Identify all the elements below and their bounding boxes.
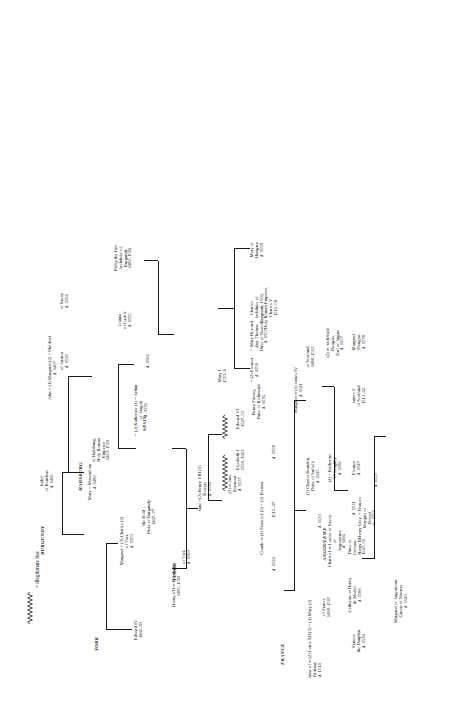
person-line: d. 1545 xyxy=(316,435,321,517)
person-node: Anne =(2) Henry VIII (1) Boleyn d. 1536 xyxy=(198,441,212,537)
person-node: Edward VI 1547–53 xyxy=(236,395,246,443)
connector xyxy=(144,260,158,261)
person-node: (4) = Katherine Willoughby d. 1580 xyxy=(328,435,342,501)
person-line: d. 1558 xyxy=(272,433,277,471)
person-line: d. 1502 xyxy=(146,341,151,381)
connector xyxy=(234,368,250,369)
person-node: of Scotland 1488–1513 xyxy=(306,331,316,383)
person-line: d. 1536 xyxy=(362,617,367,665)
person-line: 1547–53 xyxy=(241,395,246,443)
person-node: of Habsburg, Holy Roman Emperor 1493–151… xyxy=(92,419,111,481)
person-node: of Savoy d. 1504 xyxy=(60,277,70,325)
person-node: d. 1531 xyxy=(352,489,357,527)
connector xyxy=(234,248,250,249)
connector xyxy=(68,376,92,377)
connector xyxy=(118,365,119,449)
person-line: 1553–8 xyxy=(223,355,228,397)
person-node: d. 1558 xyxy=(272,433,277,471)
person-line: d. 1558 xyxy=(255,345,260,395)
person-node: Duke of Orleans, Henry II 1547–59 xyxy=(348,523,367,571)
person-node: ‘the Bold’, Duke of Burgundy 1467–77 xyxy=(142,477,156,557)
person-node: Edward IV 1461–83 xyxy=(134,597,144,663)
person-line: d. 1504 xyxy=(65,277,70,325)
connector xyxy=(62,473,63,535)
person-node: Francis the Dauphin d. 1536 xyxy=(352,617,366,665)
person-node: of York d. 1503 xyxy=(182,535,192,579)
connector xyxy=(68,377,69,473)
person-node: Mary I 1553–8 xyxy=(218,355,228,397)
person-line: 1515–47 xyxy=(272,491,277,529)
person-node: James V of Scotland 1513–42 xyxy=(352,373,366,419)
connector xyxy=(62,534,84,535)
house-label-habsburg: HABSBURG xyxy=(78,462,83,491)
person-line: 1547–59 xyxy=(362,523,367,571)
person-node: John = (1) Margaret (2) = Philibert d. 1… xyxy=(48,313,58,423)
connector xyxy=(118,364,134,365)
connector xyxy=(158,261,159,335)
connector xyxy=(284,590,294,591)
person-line: 1467–77 xyxy=(152,477,157,557)
person-node: Margaret of Angouleme Queen of Navarre d… xyxy=(394,549,408,653)
house-label-burgundy: BURGUNDY xyxy=(40,526,45,555)
genealogy-chart: YORK BURGUNDY HABSBURG SPAIN TUDOR FRANC… xyxy=(22,27,442,687)
person-node: (2) ═ Archibald Douglas, Earl of Angus d… xyxy=(326,315,345,371)
person-line: d. 1536 xyxy=(262,369,267,435)
person-line: Claude ═ (1) Francis I (2) = (2) Eleanor xyxy=(260,443,265,593)
person-node: d. 1559 xyxy=(374,461,379,499)
person-node: Charles Archduke of Burgundy 1506, Holy … xyxy=(250,265,279,351)
connector xyxy=(294,510,306,511)
person-line: d. 1530 xyxy=(65,337,70,385)
person-line: 1513–42 xyxy=(362,373,367,419)
person-line: d. 1497 xyxy=(53,313,58,423)
person-line: 1498–1515 xyxy=(327,579,332,635)
person-node: Isabel of Bourbon d. 1465 xyxy=(40,457,54,505)
connector xyxy=(172,448,186,449)
person-node: Margaret Douglas d. 1578 xyxy=(352,319,366,365)
person-line: d. 1531 xyxy=(352,489,357,527)
person-line: d. 1549 xyxy=(404,549,409,653)
person-line: d. 1557 xyxy=(340,315,345,371)
person-line: d. 1524 xyxy=(272,545,277,583)
person-node: Claude ═ (1) Francis I (2) = (2) Eleanor xyxy=(260,443,265,593)
connector xyxy=(106,629,132,630)
person-line: 1493–1519 xyxy=(106,419,111,481)
person-node: Margaret = (3) Charles (2) of York d. 15… xyxy=(120,501,134,581)
person-node: (3) Charles Brandon, Duke of Suffolk d. … xyxy=(306,435,320,517)
person-node: of Austria d. 1530 xyxy=(60,337,70,385)
person-line: d. 1503 xyxy=(187,535,192,579)
connector xyxy=(158,334,174,335)
person-node: Mary of Hungary d. 1558 xyxy=(250,227,264,273)
person-line: d. 1503 xyxy=(130,501,135,581)
person-node: of France 1498–1515 xyxy=(322,579,332,635)
person-line: d. 1559 xyxy=(374,461,379,499)
connector xyxy=(374,436,386,437)
person-node: Margaret ═ (1) James IV d. 1541 xyxy=(294,343,304,437)
house-label-france: FRANCE xyxy=(280,644,285,666)
person-line: d. 1541 xyxy=(299,343,304,437)
connector xyxy=(106,543,118,544)
connector xyxy=(322,386,334,387)
person-node: Joanna of Castile d. 1555 xyxy=(118,297,132,343)
chart-page: The Royal Houses of Europe. = illegitima… xyxy=(0,0,463,714)
person-line: 1488–1513 xyxy=(311,331,316,383)
person-line: d. 1578 xyxy=(362,319,367,365)
connector xyxy=(208,434,222,435)
person-node: = (2) Eleanor d. 1558 xyxy=(250,345,260,395)
person-node: d. 1524 xyxy=(272,545,277,583)
person-line: d. 1580 xyxy=(338,435,343,501)
connector xyxy=(106,544,107,630)
person-node: 1515–47 xyxy=(272,491,277,529)
person-line: d. 1555 xyxy=(128,297,133,343)
person-line: 1519–58 xyxy=(274,265,279,351)
person-node: Philip the Fair Archduke of, Burgundy 14… xyxy=(114,227,133,289)
connector xyxy=(234,249,235,369)
person-node: Charles I ═ Louise of Savoy of Angouleme… xyxy=(328,499,347,583)
person-line: 1482–1506 xyxy=(128,227,133,289)
person-line: d. 1465 xyxy=(50,457,55,505)
person-line: 1461–83 xyxy=(139,597,144,663)
illegitimate-connector-icon xyxy=(222,413,228,439)
person-line: d. 1536 xyxy=(208,441,213,537)
connector xyxy=(218,308,234,309)
person-line: d. 1558 xyxy=(260,227,265,273)
connector xyxy=(62,472,84,473)
